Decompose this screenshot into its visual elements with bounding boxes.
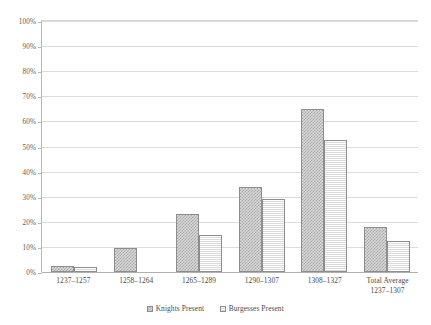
bar-knights	[114, 248, 137, 272]
bar-pair	[356, 21, 419, 272]
bar-knights	[51, 266, 74, 272]
y-axis-tick-label: 20%	[23, 219, 36, 227]
bar-pair	[43, 21, 106, 272]
bar-group	[231, 21, 294, 272]
legend-item: Knights Present	[147, 304, 204, 313]
bar-pair	[231, 21, 294, 272]
y-axis-tick	[38, 47, 42, 48]
legend-item: Burgesses Present	[220, 304, 284, 313]
x-axis-label: 1237–1257	[42, 276, 105, 296]
y-axis-tick	[38, 122, 42, 123]
plot-area: 0%10%20%30%40%50%60%70%80%90%100%	[41, 20, 418, 272]
y-axis-tick	[38, 198, 42, 199]
y-axis-tick-label: 30%	[23, 194, 36, 202]
bar-group	[106, 21, 169, 272]
y-axis-tick-label: 40%	[23, 169, 36, 177]
bar-knights	[301, 109, 324, 272]
legend-swatch-icon	[147, 306, 153, 312]
bar-burgesses	[74, 267, 97, 272]
bar-chart: 0%10%20%30%40%50%60%70%80%90%100% 1237–1…	[0, 0, 431, 325]
x-axis-label: 1290–1307	[230, 276, 293, 296]
y-axis-tick	[38, 223, 42, 224]
bar-burgesses	[324, 140, 347, 272]
bar-burgesses	[387, 241, 410, 272]
bar-pair	[293, 21, 356, 272]
x-axis-labels: 1237–12571258–12641265–12891290–13071308…	[42, 276, 419, 296]
legend-swatch-icon	[220, 306, 226, 312]
y-axis-tick-label: 80%	[23, 68, 36, 76]
bar-groups	[43, 21, 418, 272]
y-axis-tick-label: 0%	[26, 269, 36, 277]
bar-knights	[176, 214, 199, 272]
gridline: 0%	[42, 272, 418, 273]
x-axis-label: Total Average 1237–1307	[356, 276, 419, 296]
legend-label: Burgesses Present	[229, 304, 284, 313]
y-axis-tick-label: 10%	[23, 244, 36, 252]
y-axis-tick	[38, 173, 42, 174]
bar-burgesses	[262, 199, 285, 272]
bar-burgesses	[199, 235, 222, 272]
y-axis-tick-label: 50%	[23, 144, 36, 152]
bar-knights	[239, 187, 262, 272]
x-axis-label: 1258–1264	[105, 276, 168, 296]
chart-legend: Knights PresentBurgesses Present	[0, 304, 431, 313]
legend-label: Knights Present	[156, 304, 205, 313]
bar-pair	[168, 21, 231, 272]
bar-pair	[106, 21, 169, 272]
y-axis-tick-label: 60%	[23, 118, 36, 126]
bar-group	[356, 21, 419, 272]
y-axis-tick	[38, 248, 42, 249]
y-axis-tick-label: 90%	[23, 43, 36, 51]
y-axis-tick	[38, 72, 42, 73]
y-axis-tick-label: 100%	[19, 18, 36, 26]
y-axis-tick	[38, 97, 42, 98]
y-axis-tick	[38, 273, 42, 274]
bar-knights	[364, 227, 387, 272]
bar-group	[168, 21, 231, 272]
y-axis-tick	[38, 22, 42, 23]
x-axis-label: 1265–1289	[168, 276, 231, 296]
x-axis-label: 1308–1327	[293, 276, 356, 296]
bar-group	[43, 21, 106, 272]
y-axis-tick	[38, 148, 42, 149]
bar-group	[293, 21, 356, 272]
y-axis-tick-label: 70%	[23, 93, 36, 101]
